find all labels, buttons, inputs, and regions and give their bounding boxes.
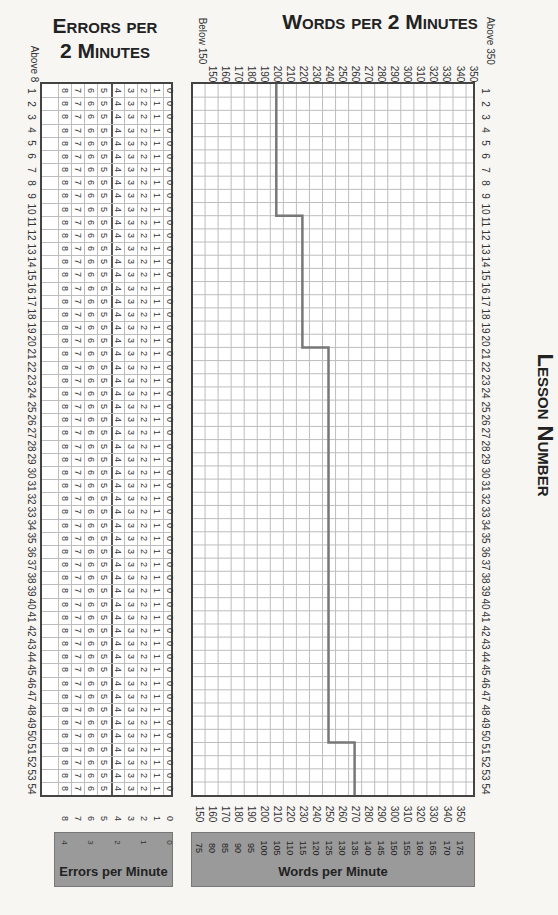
errors-bottom-tick: 2 [137, 812, 150, 825]
errors-cell: 6 [84, 611, 97, 624]
errors-cell: 2 [137, 756, 150, 769]
errors-cell: 0 [163, 295, 176, 308]
errors-cell: 7 [71, 216, 84, 229]
errors-cell: 0 [163, 663, 176, 676]
errors-cell: 5 [97, 374, 110, 387]
errors-lesson-number: 39 [25, 584, 37, 598]
errors-cell: 1 [150, 769, 163, 782]
words-top-tick: 190 [258, 59, 270, 89]
errors-cell: 1 [150, 124, 163, 137]
errors-cell: 7 [71, 189, 84, 202]
lesson-number: 19 [479, 321, 491, 335]
errors-cell: 7 [71, 716, 84, 729]
errors-cell: 4 [111, 387, 124, 400]
errors-cell: 0 [163, 479, 176, 492]
errors-cell: 0 [163, 598, 176, 611]
errors-cell: 2 [137, 650, 150, 663]
errors-cell: 2 [137, 203, 150, 216]
errors-cell: 2 [137, 716, 150, 729]
errors-cell: 5 [97, 729, 110, 742]
errors-cell: 8 [58, 650, 71, 663]
wpm-tick: 95 [246, 838, 256, 858]
errors-cell: 8 [58, 690, 71, 703]
errors-cell: 7 [71, 242, 84, 255]
errors-cell: 5 [97, 229, 110, 242]
words-top-tick: 150 [206, 59, 218, 89]
errors-cell: 4 [111, 308, 124, 321]
errors-cell: 2 [137, 571, 150, 584]
errors-cell: 4 [111, 532, 124, 545]
errors-cell: 7 [71, 426, 84, 439]
errors-cell: 0 [163, 637, 176, 650]
errors-cell: 1 [150, 374, 163, 387]
words-bottom-tick: 200 [258, 799, 270, 829]
errors-cell: 4 [111, 782, 124, 795]
lesson-number: 2 [479, 97, 491, 111]
errors-cell: 4 [111, 650, 124, 663]
errors-cell: 4 [111, 97, 124, 110]
errors-cell: 4 [111, 334, 124, 347]
errors-cell: 0 [163, 84, 176, 97]
errors-lesson-number: 20 [25, 334, 37, 348]
errors-cell: 0 [163, 361, 176, 374]
lesson-number: 10 [479, 202, 491, 216]
errors-cell: 2 [137, 505, 150, 518]
lesson-number: 25 [479, 400, 491, 414]
errors-cell: 4 [111, 558, 124, 571]
errors-cell: 2 [137, 440, 150, 453]
errors-cell: 2 [137, 532, 150, 545]
errors-lesson-number: 31 [25, 479, 37, 493]
errors-cell: 2 [137, 110, 150, 123]
errors-cell: 1 [150, 650, 163, 663]
errors-cell: 7 [71, 479, 84, 492]
errors-cell: 7 [71, 743, 84, 756]
errors-cell: 7 [71, 532, 84, 545]
errors-cell: 3 [124, 769, 137, 782]
errors-cell: 5 [97, 611, 110, 624]
errors-cell: 8 [58, 743, 71, 756]
errors-cell: 4 [111, 545, 124, 558]
words-top-tick: 220 [297, 59, 309, 89]
errors-cell: 5 [97, 242, 110, 255]
errors-cell: 3 [124, 97, 137, 110]
words-top-tick: 240 [323, 59, 335, 89]
errors-cell: 4 [111, 453, 124, 466]
words-top-tick: 160 [219, 59, 231, 89]
errors-cell: 0 [163, 571, 176, 584]
errors-cell: 3 [124, 611, 137, 624]
wpm-tick: 175 [455, 838, 465, 858]
errors-cell: 3 [124, 466, 137, 479]
errors-cell: 2 [137, 268, 150, 281]
errors-cell: 3 [124, 782, 137, 795]
errors-cell: 7 [71, 321, 84, 334]
lesson-number: 3 [479, 110, 491, 124]
lesson-number: 21 [479, 347, 491, 361]
errors-bottom-tick: 0 [163, 812, 176, 825]
errors-cell: 7 [71, 268, 84, 281]
errors-cell: 3 [124, 176, 137, 189]
wpm-tick: 110 [285, 838, 295, 858]
lesson-number: 48 [479, 703, 491, 717]
errors-cell: 5 [97, 334, 110, 347]
errors-cell: 5 [97, 598, 110, 611]
errors-cell: 1 [150, 729, 163, 742]
errors-per-minute-label: Errors per Minute [54, 864, 173, 879]
errors-cell: 5 [97, 163, 110, 176]
errors-cell: 6 [84, 137, 97, 150]
errors-cell: 7 [71, 440, 84, 453]
errors-cell: 3 [124, 374, 137, 387]
errors-cell: 1 [150, 255, 163, 268]
errors-bottom-tick: 7 [71, 812, 84, 825]
errors-lesson-number: 42 [25, 624, 37, 638]
errors-cell: 2 [137, 216, 150, 229]
errors-cell: 6 [84, 124, 97, 137]
words-grid [191, 82, 475, 797]
words-grid-lines [193, 84, 473, 795]
errors-lesson-number: 21 [25, 347, 37, 361]
errors-cell: 4 [111, 611, 124, 624]
errors-cell: 3 [124, 229, 137, 242]
wpm-tick: 145 [376, 838, 386, 858]
errors-cell: 3 [124, 492, 137, 505]
words-bottom-tick: 250 [323, 799, 335, 829]
errors-cell: 6 [84, 624, 97, 637]
